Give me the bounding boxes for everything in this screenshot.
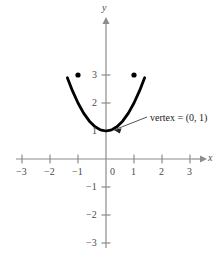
point-marker-right [131, 72, 136, 77]
x-axis-label: x [208, 152, 212, 163]
y-tick-label--3: −3 [86, 237, 97, 248]
x-axis [16, 156, 207, 163]
vertex-annotation-label: vertex = (0, 1) [150, 112, 207, 123]
x-tick-label--3: −3 [16, 166, 27, 177]
y-tick-label-1: 1 [92, 125, 97, 136]
x-tick-label-1: 1 [131, 166, 136, 177]
y-tick-label--2: −2 [86, 209, 97, 220]
y-tick-label--1: −1 [86, 181, 97, 192]
y-tick-label-2: 2 [92, 97, 97, 108]
y-axis-label: y [102, 2, 106, 13]
x-tick-label--1: −1 [72, 166, 83, 177]
point-marker-left [75, 72, 80, 77]
parabola-figure: −3 −2 −1 0 1 2 3 3 2 1 −1 −2 −3 y x vert… [0, 0, 217, 256]
y-axis [103, 17, 110, 248]
x-tick-label-2: 2 [159, 166, 164, 177]
y-tick-label-3: 3 [92, 69, 97, 80]
x-tick-label-3: 3 [187, 166, 192, 177]
plot-canvas [0, 0, 217, 256]
x-tick-label--2: −2 [44, 166, 55, 177]
x-tick-label-0: 0 [110, 166, 115, 177]
